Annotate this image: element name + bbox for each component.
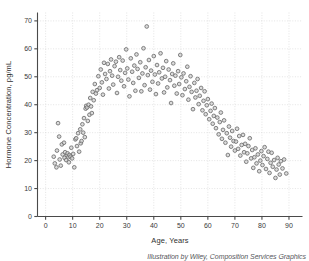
data-point [67, 160, 71, 164]
data-point [159, 51, 163, 55]
data-point [198, 94, 202, 98]
data-point [225, 131, 229, 135]
data-point [96, 74, 100, 78]
data-point [111, 83, 115, 87]
data-point [191, 107, 195, 111]
data-point [70, 157, 74, 161]
data-point [108, 69, 112, 73]
axis-tick-labels: 0102030405060700102030405060708090 [24, 17, 293, 229]
data-point [248, 136, 252, 140]
data-point [274, 176, 278, 180]
x-tick-label: 70 [231, 222, 239, 229]
data-point [138, 60, 142, 64]
data-point [82, 116, 86, 120]
data-point [89, 105, 93, 109]
data-point [256, 153, 260, 157]
data-point [62, 141, 66, 145]
data-point [169, 101, 173, 105]
data-point [190, 90, 194, 94]
data-point [185, 65, 189, 69]
data-point [234, 140, 238, 144]
data-point [192, 81, 196, 85]
data-point [81, 131, 85, 135]
data-point [80, 139, 84, 143]
data-point [227, 125, 231, 129]
data-point [266, 157, 270, 161]
data-point [157, 70, 161, 74]
data-point [136, 67, 140, 71]
data-point [184, 79, 188, 83]
data-point [55, 165, 59, 169]
data-point [196, 77, 200, 81]
data-point [268, 171, 272, 175]
data-point [71, 152, 75, 156]
data-point [93, 82, 97, 86]
data-point [215, 116, 219, 120]
x-tick-label: 80 [258, 222, 266, 229]
data-point [276, 156, 280, 160]
illustration-credit: Illustration by Wiley, Composition Servi… [147, 253, 306, 260]
data-point [164, 59, 168, 63]
data-point [177, 82, 181, 86]
data-point [226, 153, 230, 157]
data-point [53, 162, 57, 166]
data-point [144, 65, 148, 69]
data-point [182, 72, 186, 76]
y-tick-label: 40 [24, 101, 32, 108]
data-point [134, 89, 138, 93]
y-tick-label: 60 [24, 45, 32, 52]
data-point [116, 75, 120, 79]
data-point [197, 102, 201, 106]
data-point [98, 86, 102, 90]
data-point [102, 61, 106, 65]
axis-lines [38, 13, 303, 217]
data-point [210, 102, 214, 106]
data-point [58, 158, 62, 162]
y-tick-label: 50 [24, 73, 32, 80]
data-point [59, 164, 63, 168]
data-point [175, 92, 179, 96]
data-point [141, 72, 145, 76]
data-point [156, 82, 160, 86]
data-point [257, 169, 261, 173]
data-point [125, 67, 129, 71]
data-point [161, 66, 165, 70]
y-tick-label: 10 [24, 185, 32, 192]
data-point [188, 85, 192, 89]
data-point [88, 96, 92, 100]
data-point [148, 88, 152, 92]
x-tick-label: 10 [69, 222, 77, 229]
data-points [52, 25, 288, 180]
data-point [176, 69, 180, 73]
y-tick-label: 0 [28, 213, 32, 220]
data-point [77, 150, 81, 154]
x-tick-label: 60 [204, 222, 212, 229]
x-tick-label: 90 [285, 222, 293, 229]
data-point [124, 48, 128, 52]
data-point [205, 103, 209, 107]
data-point [284, 172, 288, 176]
data-point [167, 68, 171, 72]
data-point [219, 111, 223, 115]
data-point [236, 147, 240, 151]
x-tick-label: 20 [96, 222, 104, 229]
data-point [222, 119, 226, 123]
data-point [194, 96, 198, 100]
data-point [214, 126, 218, 130]
data-point [224, 141, 228, 145]
data-point [172, 84, 176, 88]
data-point [139, 89, 143, 93]
data-point [72, 165, 76, 169]
data-point [101, 93, 105, 97]
data-point [154, 92, 158, 96]
data-point [110, 74, 114, 78]
y-tick-label: 20 [24, 157, 32, 164]
data-point [118, 68, 122, 72]
data-point [183, 87, 187, 91]
data-point [131, 81, 135, 85]
data-point [121, 59, 125, 63]
data-point [218, 120, 222, 124]
data-point [103, 72, 107, 76]
data-point [201, 108, 205, 112]
data-point [132, 64, 136, 68]
